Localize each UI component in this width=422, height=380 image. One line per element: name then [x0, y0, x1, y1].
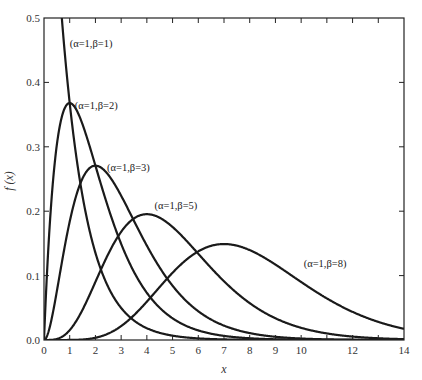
axis-ticks: 01234567891012140.00.10.20.30.40.5	[26, 12, 410, 356]
curve-beta-5	[44, 214, 404, 340]
x-tick-label: 8	[247, 344, 253, 356]
curve-labels: (α=1,β=1)(α=1,β=2)(α=1,β=3)(α=1,β=5)(α=1…	[70, 38, 347, 270]
x-tick-label: 4	[144, 344, 150, 356]
x-axis-title: x	[220, 362, 227, 376]
curves	[44, 0, 404, 340]
curve-beta-1	[44, 0, 404, 340]
curve-beta-3	[44, 166, 404, 340]
curve-label-beta-8: (α=1,β=8)	[304, 258, 347, 270]
gamma-distribution-chart: 01234567891012140.00.10.20.30.40.5 (α=1,…	[0, 0, 422, 380]
x-tick-label: 10	[296, 344, 308, 356]
curve-label-beta-2: (α=1,β=2)	[75, 100, 118, 112]
y-tick-label: 0.4	[26, 76, 40, 88]
x-tick-label: 14	[399, 344, 411, 356]
y-tick-label: 0.0	[26, 334, 40, 346]
curve-label-beta-5: (α=1,β=5)	[155, 200, 198, 212]
curve-label-beta-1: (α=1,β=1)	[70, 38, 113, 50]
y-tick-label: 0.3	[26, 141, 40, 153]
plot-frame	[44, 18, 404, 340]
y-axis-title: f (x)	[2, 171, 16, 191]
x-tick-label: 5	[170, 344, 176, 356]
x-tick-label: 2	[93, 344, 99, 356]
x-tick-label: 0	[41, 344, 47, 356]
x-tick-label: 1	[67, 344, 73, 356]
curve-beta-2	[44, 103, 404, 340]
x-tick-label: 3	[118, 344, 124, 356]
y-tick-label: 0.1	[26, 270, 40, 282]
x-tick-label: 6	[196, 344, 202, 356]
x-tick-label: 9	[273, 344, 279, 356]
curve-label-beta-3: (α=1,β=3)	[107, 162, 150, 174]
y-tick-label: 0.5	[26, 12, 40, 24]
x-tick-label: 12	[347, 344, 358, 356]
x-tick-label: 7	[221, 344, 227, 356]
y-tick-label: 0.2	[26, 205, 40, 217]
